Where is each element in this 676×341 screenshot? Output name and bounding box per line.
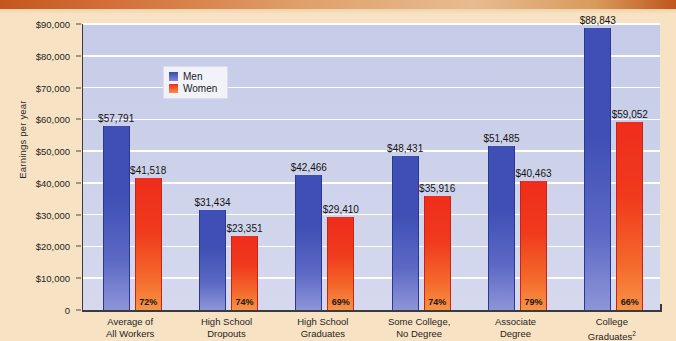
bar-value-label-women: $35,916 xyxy=(419,183,455,194)
y-axis-tick-mark xyxy=(76,310,81,311)
y-axis-tick-label: $10,000 xyxy=(36,273,70,284)
bar-value-label-men: $42,466 xyxy=(291,162,327,173)
y-axis-tick-mark xyxy=(76,55,81,56)
y-axis-tick-mark xyxy=(76,87,81,88)
bar-group: $51,485$40,46379% xyxy=(468,24,564,310)
bar-men[interactable]: $42,466 xyxy=(295,175,322,310)
bar-value-label-men: $51,485 xyxy=(483,133,519,144)
bar-value-label-women: $40,463 xyxy=(515,168,551,179)
bar-value-label-women: $41,518 xyxy=(130,165,166,176)
y-axis-tick-label: $90,000 xyxy=(36,19,70,30)
y-axis-tick-label: $60,000 xyxy=(36,114,70,125)
bar-value-label-men: $57,791 xyxy=(98,113,134,124)
legend-item[interactable]: Women xyxy=(169,83,217,94)
y-axis-tick-label: $80,000 xyxy=(36,50,70,61)
bar-men[interactable]: $57,791 xyxy=(103,126,130,310)
ratio-label: 69% xyxy=(332,297,350,307)
y-axis-tick-label: $30,000 xyxy=(36,209,70,220)
bar-women[interactable]: $40,46379% xyxy=(520,181,547,310)
y-axis-tick-label: 0 xyxy=(65,305,70,316)
bar-women[interactable]: $41,51872% xyxy=(135,178,162,310)
y-axis-tick-label: $50,000 xyxy=(36,146,70,157)
y-axis-tick-mark xyxy=(76,214,81,215)
bar-women[interactable]: $23,35174% xyxy=(231,236,258,310)
x-axis-category-label: CollegeGraduates2 xyxy=(564,316,660,341)
bar-men[interactable]: $31,434 xyxy=(199,210,226,310)
x-axis-category-label: AssociateDegree xyxy=(467,316,563,339)
chart-legend: MenWomen xyxy=(163,66,228,99)
legend-label: Men xyxy=(183,71,202,82)
bar-women[interactable]: $35,91674% xyxy=(424,196,451,310)
ratio-label: 72% xyxy=(139,297,157,307)
ratio-label: 79% xyxy=(524,297,542,307)
y-axis-tick-mark xyxy=(76,182,81,183)
bar-group: $48,431$35,91674% xyxy=(372,24,468,310)
bar-value-label-women: $29,410 xyxy=(323,204,359,215)
y-axis-tick-label: $40,000 xyxy=(36,177,70,188)
y-axis-ticks: 0$10,000$20,000$30,000$40,000$50,000$60,… xyxy=(0,14,78,314)
bar-men[interactable]: $88,843 xyxy=(584,28,611,310)
bar-women[interactable]: $29,41069% xyxy=(327,217,354,310)
x-axis-labels: Average ofAll WorkersHigh SchoolDropouts… xyxy=(82,316,660,341)
x-axis-right-tick xyxy=(660,304,662,311)
y-axis-tick-mark xyxy=(76,151,81,152)
ratio-label: 74% xyxy=(428,297,446,307)
y-axis-tick-mark xyxy=(76,246,81,247)
bar-value-label-men: $88,843 xyxy=(580,15,616,26)
legend-label: Women xyxy=(183,83,217,94)
bar-chart: Earnings per year 0$10,000$20,000$30,000… xyxy=(0,14,676,341)
x-axis-category-label: Average ofAll Workers xyxy=(82,316,178,339)
bar-value-label-women: $59,052 xyxy=(612,109,648,120)
bar-group: $88,843$59,05266% xyxy=(565,24,661,310)
legend-swatch-men xyxy=(169,72,178,81)
bar-value-label-women: $23,351 xyxy=(226,223,262,234)
ratio-label: 66% xyxy=(621,297,639,307)
x-axis-category-label: High SchoolGraduates xyxy=(275,316,371,339)
y-axis-tick-label: $70,000 xyxy=(36,82,70,93)
x-axis-line xyxy=(82,310,662,312)
x-axis-category-label: High SchoolDropouts xyxy=(178,316,274,339)
ratio-label: 74% xyxy=(235,297,253,307)
bar-men[interactable]: $51,485 xyxy=(488,146,515,310)
legend-swatch-women xyxy=(169,84,178,93)
y-axis-tick-mark xyxy=(76,24,81,25)
y-axis-tick-label: $20,000 xyxy=(36,241,70,252)
bar-value-label-men: $48,431 xyxy=(387,143,423,154)
bar-women[interactable]: $59,05266% xyxy=(616,122,643,310)
title-band xyxy=(0,0,676,9)
bar-men[interactable]: $48,431 xyxy=(392,156,419,310)
bar-group: $42,466$29,41069% xyxy=(276,24,372,310)
x-axis-category-label: Some College,No Degree xyxy=(371,316,467,339)
y-axis-tick-mark xyxy=(76,278,81,279)
bar-value-label-men: $31,434 xyxy=(194,197,230,208)
y-axis-tick-mark xyxy=(76,119,81,120)
legend-item[interactable]: Men xyxy=(169,71,217,82)
